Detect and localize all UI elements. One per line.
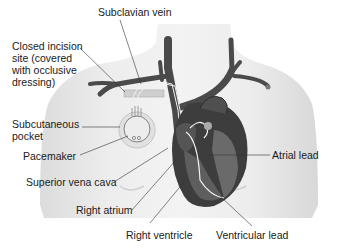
label-right-ventricle: Right ventricle bbox=[126, 229, 193, 241]
label-ventricular-lead: Ventricular lead bbox=[216, 229, 288, 241]
pacemaker-device bbox=[124, 116, 150, 142]
label-subcutaneous-pocket: Subcutaneous pocket bbox=[12, 118, 82, 142]
label-pacemaker: Pacemaker bbox=[23, 150, 76, 162]
pacemaker-diagram: Subclavian vein Closed incision site (co… bbox=[0, 0, 343, 249]
label-closed-incision-site: Closed incision site (covered with occlu… bbox=[12, 40, 90, 88]
label-atrial-lead: Atrial lead bbox=[272, 149, 319, 161]
label-right-atrium: Right atrium bbox=[76, 204, 133, 216]
incision-dressing bbox=[124, 90, 164, 97]
label-subclavian-vein: Subclavian vein bbox=[98, 6, 172, 18]
label-superior-vena-cava: Superior vena cava bbox=[26, 176, 116, 188]
